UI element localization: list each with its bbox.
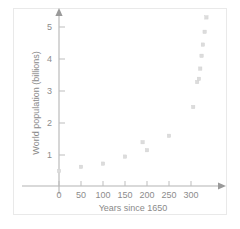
x-tick-label: 150 bbox=[117, 190, 132, 200]
y-tick-label: 4 bbox=[47, 54, 52, 64]
y-tick-labels: 1 2 3 4 5 bbox=[47, 22, 52, 160]
x-tick-label: 250 bbox=[161, 190, 176, 200]
data-point bbox=[197, 77, 200, 80]
chart-screenshot: 0 50 100 150 200 250 300 1 2 3 4 5 Years… bbox=[0, 0, 240, 229]
data-point bbox=[199, 67, 202, 70]
y-axis-title: World population (billions) bbox=[31, 51, 41, 154]
data-point bbox=[123, 155, 126, 158]
y-axis bbox=[55, 8, 62, 194]
data-point bbox=[167, 134, 170, 137]
data-point bbox=[205, 16, 208, 19]
x-tick-labels: 0 50 100 150 200 250 300 bbox=[56, 190, 198, 200]
y-tick-label: 1 bbox=[47, 150, 52, 160]
y-tick-label: 5 bbox=[47, 22, 52, 32]
x-tick-label: 50 bbox=[76, 190, 86, 200]
data-point bbox=[203, 30, 206, 33]
data-point bbox=[79, 165, 82, 168]
data-point bbox=[201, 43, 204, 46]
y-tick-marks bbox=[59, 27, 65, 155]
x-tick-label: 300 bbox=[183, 190, 198, 200]
data-point bbox=[101, 162, 104, 165]
data-point bbox=[192, 105, 195, 108]
data-point bbox=[57, 169, 60, 172]
data-point bbox=[200, 54, 203, 57]
x-tick-label: 0 bbox=[56, 190, 61, 200]
data-point bbox=[141, 141, 144, 144]
x-tick-label: 200 bbox=[139, 190, 154, 200]
scatter-plot: 0 50 100 150 200 250 300 1 2 3 4 5 Years… bbox=[0, 0, 240, 229]
data-point bbox=[195, 80, 198, 83]
y-axis-arrow-icon bbox=[55, 8, 62, 16]
x-tick-marks bbox=[59, 181, 191, 186]
x-axis-arrow-icon bbox=[218, 182, 226, 189]
data-points-layer bbox=[57, 16, 208, 173]
x-axis bbox=[22, 182, 226, 189]
x-tick-label: 100 bbox=[95, 190, 110, 200]
y-tick-label: 3 bbox=[47, 86, 52, 96]
data-point bbox=[145, 149, 148, 152]
y-tick-label: 2 bbox=[47, 118, 52, 128]
x-axis-title: Years since 1650 bbox=[99, 203, 168, 213]
